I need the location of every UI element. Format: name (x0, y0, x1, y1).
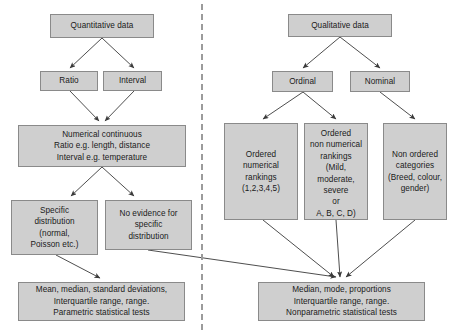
edge-non-ordered-categories-to-nonparametric-tests (346, 220, 415, 277)
node-numerical-continuous: Numerical continuous Ratio e.g. length, … (18, 125, 186, 167)
edge-ratio-to-numerical-continuous (70, 91, 99, 121)
edge-ordinal-to-ordered-numerical (263, 92, 303, 119)
edge-quantitative-data-to-ratio (70, 38, 102, 68)
flowchart-canvas: Quantitative dataRatioIntervalNumerical … (0, 0, 465, 334)
node-nominal: Nominal (350, 71, 410, 92)
node-specific-distribution: Specific distribution (normal, Poisson e… (11, 200, 98, 255)
edge-numerical-continuous-to-no-evidence-specific (102, 167, 134, 196)
node-ordered-numerical: Ordered numerical rankings (1,2,3,4,5) (224, 123, 298, 220)
node-ratio: Ratio (40, 71, 98, 91)
edge-interval-to-numerical-continuous (105, 91, 134, 121)
node-nonparametric-tests: Median, mode, proportions Interquartile … (258, 282, 425, 321)
node-ordered-non-numerical: Ordered non numerical rankings (Mild, mo… (304, 123, 368, 220)
edge-no-evidence-specific-to-nonparametric-tests (148, 250, 336, 277)
edge-specific-distribution-to-parametric-tests (56, 255, 100, 278)
node-no-evidence-specific: No evidence for specific distribution (105, 200, 192, 250)
edge-numerical-continuous-to-specific-distribution (71, 167, 102, 196)
edge-ordinal-to-ordered-non-numerical (303, 92, 336, 119)
node-parametric-tests: Mean, median, standard deviations, Inter… (18, 282, 185, 321)
node-quantitative-data: Quantitative data (50, 14, 154, 38)
edge-ordered-numerical-to-nonparametric-tests (263, 220, 334, 277)
node-ordinal: Ordinal (272, 71, 333, 92)
edge-ordered-non-numerical-to-nonparametric-tests (336, 220, 340, 277)
edge-quantitative-data-to-interval (102, 38, 134, 68)
vertical-dashed-divider (201, 4, 203, 330)
node-interval: Interval (103, 71, 162, 91)
node-qualitative-data: Qualitative data (288, 14, 392, 37)
edge-nominal-to-non-ordered-categories (380, 92, 415, 119)
node-non-ordered-categories: Non ordered categories (Breed, colour, g… (383, 123, 447, 220)
edge-qualitative-data-to-ordinal (303, 37, 340, 68)
edge-qualitative-data-to-nominal (340, 37, 380, 68)
